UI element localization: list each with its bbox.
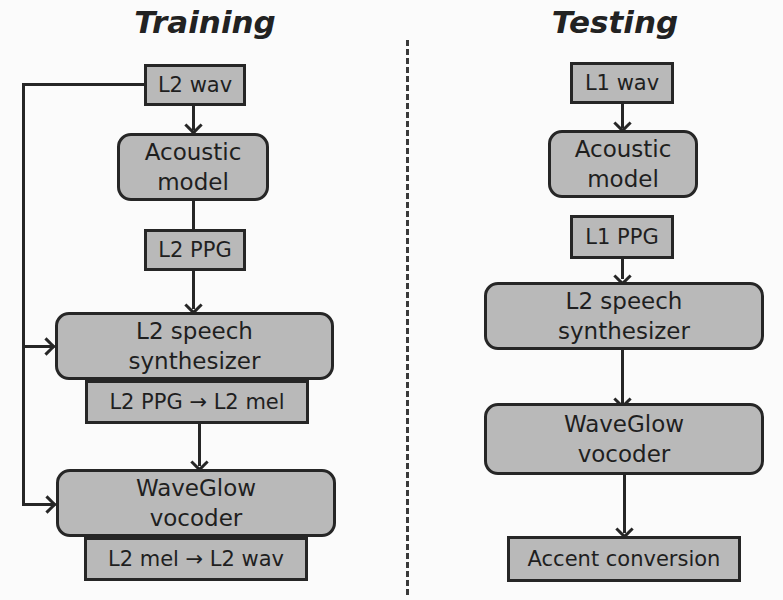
node-label: L2 speech synthesizer — [544, 286, 704, 346]
arrow-right-icon — [37, 337, 55, 355]
node-label: L2 wav — [158, 73, 232, 98]
node-label: L2 speech synthesizer — [115, 316, 275, 376]
testing-l2-speech-synthesizer-node: L2 speech synthesizer — [484, 282, 764, 350]
testing-acoustic-model-node: Acoustic model — [548, 130, 698, 198]
testing-l1-ppg-node: L1 PPG — [570, 215, 674, 259]
node-label: L1 PPG — [585, 225, 658, 250]
training-l2-mel-to-wav-node: L2 mel → L2 wav — [84, 537, 308, 581]
training-l2-wav-node: L2 wav — [144, 64, 246, 106]
testing-accent-conversion-node: Accent conversion — [507, 536, 741, 582]
testing-title: Testing — [540, 4, 690, 40]
node-label: L2 mel → L2 wav — [108, 547, 284, 572]
training-l2-ppg-node: L2 PPG — [144, 229, 246, 271]
training-l2-speech-synthesizer-node: L2 speech synthesizer — [55, 312, 334, 380]
node-label: Acoustic model — [568, 134, 678, 194]
node-label: WaveGlow vocoder — [559, 409, 689, 469]
training-acoustic-model-node: Acoustic model — [117, 133, 269, 201]
testing-l1-wav-node: L1 wav — [570, 62, 674, 104]
node-label: Accent conversion — [528, 547, 721, 572]
arrow-right-icon — [38, 495, 56, 513]
training-l2-ppg-to-mel-node: L2 PPG → L2 mel — [85, 380, 309, 424]
training-waveglow-vocoder-node: WaveGlow vocoder — [56, 469, 336, 537]
node-label: L1 wav — [585, 71, 659, 96]
connector — [192, 201, 195, 230]
testing-waveglow-vocoder-node: WaveGlow vocoder — [484, 403, 764, 475]
arrow-down-icon — [184, 116, 202, 134]
bypass-connector — [22, 83, 144, 86]
node-label: WaveGlow vocoder — [131, 473, 261, 533]
node-label: L2 PPG → L2 mel — [109, 390, 284, 415]
training-title: Training — [120, 4, 290, 40]
bypass-connector — [22, 83, 25, 505]
node-label: L2 PPG — [158, 238, 231, 263]
section-divider — [406, 40, 409, 595]
node-label: Acoustic model — [138, 137, 248, 197]
